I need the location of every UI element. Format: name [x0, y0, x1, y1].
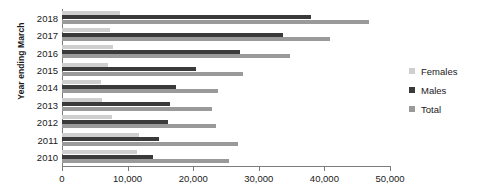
legend-label: Females	[421, 66, 457, 77]
bar-total-2015	[62, 72, 243, 76]
bar-males-2017	[62, 33, 283, 37]
legend-item-total[interactable]: Total	[409, 101, 475, 117]
bar-males-2014	[62, 85, 176, 89]
y-axis-tick-label: 2014	[37, 82, 58, 93]
x-axis-tick-label: 50,000	[375, 173, 404, 184]
bar-females-2013	[62, 98, 102, 102]
y-axis-tick-label: 2016	[37, 47, 58, 58]
bar-males-2013	[62, 102, 170, 106]
y-axis-tick-label: 2018	[37, 12, 58, 23]
bar-females-2014	[62, 80, 101, 84]
x-axis-tick-label: 10,000	[113, 173, 142, 184]
bar-males-2011	[62, 137, 159, 141]
bar-total-2016	[62, 54, 290, 58]
bar-females-2018	[62, 11, 120, 15]
x-axis-tick-label: 0	[59, 173, 64, 184]
category-row: 2017	[62, 26, 390, 43]
chart-legend: FemalesMalesTotal	[409, 63, 475, 120]
category-row: 2013	[62, 96, 390, 113]
category-row: 2018	[62, 9, 390, 26]
y-axis-tick-label: 2013	[37, 99, 58, 110]
bar-females-2015	[62, 63, 108, 67]
x-axis-tick	[390, 167, 391, 171]
bar-females-2012	[62, 115, 112, 119]
x-axis-tick	[324, 167, 325, 171]
bar-total-2018	[62, 20, 369, 24]
bar-chart: Year ending March 2018201720162015201420…	[0, 0, 477, 195]
category-row: 2011	[62, 131, 390, 148]
y-axis-title: Year ending March	[16, 6, 26, 116]
bar-males-2015	[62, 67, 196, 71]
bar-males-2012	[62, 120, 168, 124]
y-axis-tick-label: 2015	[37, 65, 58, 76]
x-axis-ticks: 010,00020,00030,00040,00050,000	[62, 167, 391, 189]
x-axis-tick	[193, 167, 194, 171]
category-row: 2014	[62, 79, 390, 96]
category-row: 2010	[62, 149, 390, 166]
legend-label: Males	[421, 85, 446, 96]
legend-item-females[interactable]: Females	[409, 63, 475, 79]
x-axis-tick-label: 20,000	[179, 173, 208, 184]
bar-males-2016	[62, 50, 240, 54]
bar-males-2018	[62, 15, 311, 19]
y-axis-tick-label: 2011	[38, 134, 58, 145]
x-axis-tick	[62, 167, 63, 171]
plot-area: 201820172016201520142013201220112010	[62, 9, 390, 166]
bar-total-2012	[62, 124, 216, 128]
bar-total-2011	[62, 142, 238, 146]
category-row: 2016	[62, 44, 390, 61]
bar-total-2010	[62, 159, 229, 163]
category-row: 2012	[62, 114, 390, 131]
x-axis-tick	[259, 167, 260, 171]
x-axis-tick-label: 30,000	[244, 173, 273, 184]
bar-males-2010	[62, 155, 153, 159]
legend-swatch-icon	[409, 68, 415, 74]
y-axis-tick-label: 2017	[37, 30, 58, 41]
bar-total-2017	[62, 37, 330, 41]
bar-females-2011	[62, 133, 139, 137]
bar-females-2017	[62, 28, 110, 32]
legend-item-males[interactable]: Males	[409, 82, 475, 98]
legend-swatch-icon	[409, 87, 415, 93]
x-axis-tick	[128, 167, 129, 171]
category-row: 2015	[62, 61, 390, 78]
legend-label: Total	[421, 104, 441, 115]
bar-females-2016	[62, 45, 113, 49]
x-axis-tick-label: 40,000	[310, 173, 339, 184]
bar-total-2013	[62, 107, 212, 111]
y-axis-tick-label: 2012	[37, 117, 58, 128]
legend-swatch-icon	[409, 106, 415, 112]
bar-females-2010	[62, 150, 137, 154]
y-axis-tick-label: 2010	[37, 152, 58, 163]
bar-total-2014	[62, 89, 218, 93]
